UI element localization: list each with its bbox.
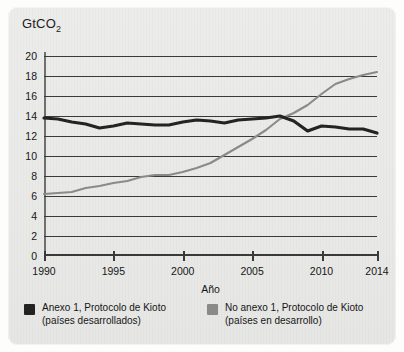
x-tick-label: 2010 — [310, 265, 333, 277]
legend-swatch-annex1-icon — [24, 304, 35, 315]
x-axis-title: Año — [44, 283, 377, 295]
plot-area: 20181614121086420 1990199520002005201020… — [44, 56, 377, 256]
legend-label-non-annex1-sub: (países en desarrollo) — [225, 315, 322, 326]
legend-label-annex1: Anexo 1, Protocolo de Kioto (países desa… — [42, 302, 166, 327]
x-tick-label: 2005 — [240, 265, 263, 277]
x-tick-label: 2000 — [171, 265, 194, 277]
legend-item-non-annex1: No anexo 1, Protocolo de Kioto (países e… — [207, 302, 380, 327]
legend-label-non-annex1: No anexo 1, Protocolo de Kioto (países e… — [225, 302, 363, 327]
chart-figure: GtCO2 20181614121086420 1990199520002005… — [0, 0, 404, 352]
x-tick-label: 2014 — [365, 265, 388, 277]
legend-label-annex1-title: Anexo 1, Protocolo de Kioto — [42, 302, 166, 313]
y-tick-label: 12 — [25, 130, 37, 142]
series-lines — [44, 56, 377, 256]
y-tick-label: 4 — [31, 210, 37, 222]
legend-label-annex1-sub: (países desarrollados) — [42, 315, 141, 326]
y-axis-unit-text: GtCO — [22, 16, 56, 31]
series-line — [44, 116, 377, 133]
y-axis-unit-label: GtCO2 — [22, 16, 61, 34]
y-tick-label: 0 — [31, 250, 37, 262]
y-tick-label: 6 — [31, 190, 37, 202]
y-tick-label: 8 — [31, 170, 37, 182]
x-tick-label: 1995 — [102, 265, 125, 277]
y-tick-label: 2 — [31, 230, 37, 242]
legend-label-non-annex1-title: No anexo 1, Protocolo de Kioto — [225, 302, 363, 313]
x-tick-mark — [377, 251, 379, 261]
y-tick-label: 18 — [25, 70, 37, 82]
y-tick-label: 20 — [25, 50, 37, 62]
series-line — [44, 72, 377, 194]
chart-legend: Anexo 1, Protocolo de Kioto (países desa… — [24, 302, 380, 327]
x-tick-label: 1990 — [32, 265, 55, 277]
y-tick-label: 10 — [25, 150, 37, 162]
legend-swatch-non-annex1-icon — [207, 304, 218, 315]
y-tick-label: 14 — [25, 110, 37, 122]
legend-item-annex1: Anexo 1, Protocolo de Kioto (países desa… — [24, 302, 197, 327]
y-tick-label: 16 — [25, 90, 37, 102]
y-axis-unit-subscript: 2 — [56, 24, 61, 34]
